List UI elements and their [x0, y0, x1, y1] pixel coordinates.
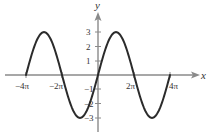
x-tick-label: −2π	[49, 81, 64, 91]
y-tick-label: 1	[86, 56, 91, 66]
sine-graph: x y 3 2 1 −1 −2 −3 −4π −2π 2π 4π	[0, 0, 211, 137]
x-tick-label: 2π	[126, 81, 136, 91]
y-axis-label: y	[94, 0, 100, 11]
x-tick-label: 4π	[169, 81, 179, 91]
x-axis-label: x	[200, 69, 206, 81]
x-tick-label: −4π	[15, 81, 30, 91]
y-tick-label: −1	[84, 84, 94, 94]
y-tick-label: 3	[86, 27, 91, 37]
y-tick-label: 2	[86, 42, 91, 52]
